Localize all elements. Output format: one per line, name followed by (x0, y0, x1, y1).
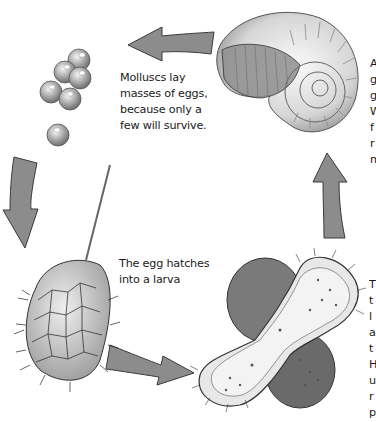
arrow-right-icon (106, 345, 194, 385)
egg-cluster-illustration (40, 49, 91, 146)
life-cycle-diagram: Molluscs lay masses of eggs, because onl… (0, 0, 376, 422)
stage-label-adult-shell-fragment: A g g W f r m (370, 56, 376, 168)
stage-label-veliger-fragment: T t l a t H u r p (369, 277, 376, 422)
arrow-down-icon (3, 157, 38, 248)
diagram-illustration (0, 0, 376, 422)
stage-label-eggs: Molluscs lay masses of eggs, because onl… (120, 70, 220, 134)
arrow-up-icon (313, 153, 347, 238)
stage-label-larva: The egg hatches into a larva (119, 256, 219, 288)
arrow-left-icon (128, 27, 214, 61)
adult-shell-illustration (217, 12, 358, 132)
